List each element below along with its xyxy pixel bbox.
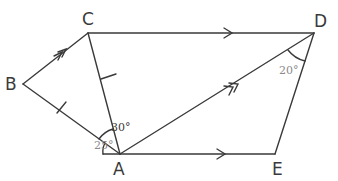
equal-tick-icon bbox=[101, 74, 116, 79]
angle-label-30: 30° bbox=[111, 121, 131, 134]
point-label-d: D bbox=[314, 11, 327, 31]
point-label-c: C bbox=[82, 9, 94, 29]
angle-arc-20 bbox=[288, 50, 305, 61]
segment-bc bbox=[23, 33, 88, 84]
angle-label-25: 25° bbox=[94, 139, 114, 152]
segment-de bbox=[275, 33, 314, 154]
segment-ca bbox=[88, 33, 120, 154]
geometry-diagram: C D B A E 30° 25° 20° bbox=[0, 0, 338, 181]
point-label-e: E bbox=[272, 159, 283, 179]
point-label-a: A bbox=[113, 159, 125, 179]
angle-label-20: 20° bbox=[279, 64, 299, 77]
segment-ad bbox=[120, 33, 314, 154]
point-label-b: B bbox=[5, 74, 17, 94]
